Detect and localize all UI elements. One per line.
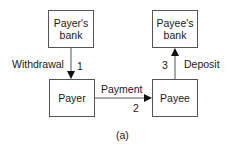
payer-label: Payer [58, 92, 85, 104]
payers-bank-label-line2: bank [54, 29, 89, 41]
deposit-label: Deposit [184, 58, 220, 70]
payee-node: Payee [152, 79, 198, 117]
deposit-step: 3 [162, 59, 168, 71]
payment-step: 2 [133, 102, 139, 114]
withdrawal-step: 1 [77, 60, 83, 72]
figure-caption: (a) [116, 129, 129, 141]
payers-bank-node: Payer's bank [48, 10, 94, 48]
payees-bank-label-line1: Payee's [156, 17, 193, 29]
payment-label: Payment [101, 83, 142, 95]
payees-bank-node: Payee's bank [152, 10, 198, 48]
payer-node: Payer [49, 79, 95, 117]
payees-bank-label-line2: bank [156, 29, 193, 41]
payers-bank-label-line1: Payer's [54, 17, 89, 29]
payee-label: Payee [160, 92, 190, 104]
withdrawal-label: Withdrawal [12, 58, 64, 70]
